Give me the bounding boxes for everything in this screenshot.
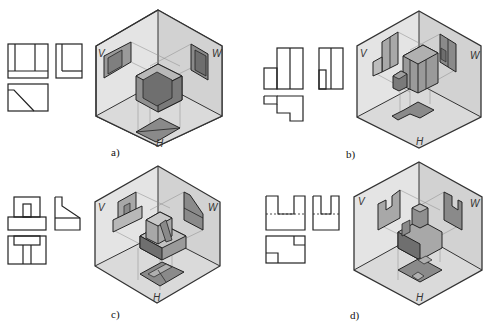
plane-label-h-b: H <box>416 136 423 147</box>
projection-box-b <box>357 11 481 148</box>
plane-label-h-d: H <box>416 292 423 303</box>
panel-d: V W H d) <box>0 162 486 325</box>
plane-label-w-d: W <box>470 198 479 209</box>
plane-label-v-b: V <box>360 48 367 59</box>
panel-b: V W H b) <box>0 0 486 162</box>
projection-box-d <box>354 162 482 305</box>
ortho-views-b <box>264 48 343 121</box>
panel-b-drawing <box>0 0 486 162</box>
caption-b: b) <box>346 148 355 160</box>
plane-label-w-b: W <box>470 50 479 61</box>
panel-d-drawing <box>0 162 486 325</box>
ortho-views-d <box>266 196 339 263</box>
caption-d: d) <box>350 309 359 321</box>
plane-label-v-d: V <box>358 196 365 207</box>
